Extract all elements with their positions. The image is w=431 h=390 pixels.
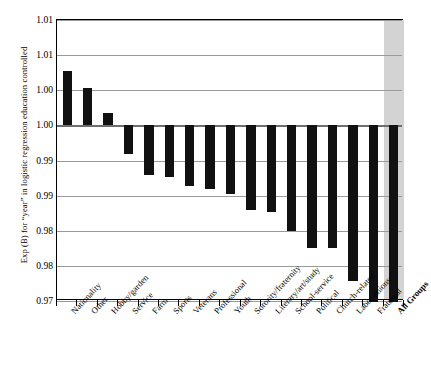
gridline [57, 90, 402, 91]
bar [83, 88, 92, 125]
y-axis-tick-label: 1.00 [36, 119, 53, 130]
plot-area [56, 19, 403, 300]
x-axis-category-labels: NationalityOtherHobby/gardenServiceFarmS… [0, 300, 409, 390]
bar [226, 125, 235, 194]
bar [103, 113, 112, 125]
y-axis-tick-label: 1.01 [36, 49, 53, 60]
y-axis-tick-label: 0.99 [36, 189, 53, 200]
y-axis-tick-label: 0.98 [36, 224, 53, 235]
gridline [57, 55, 402, 56]
bar [165, 125, 174, 176]
bar [63, 71, 72, 126]
y-axis-tick-label: 1.00 [36, 84, 53, 95]
bar [307, 125, 316, 247]
bar [389, 125, 398, 301]
y-axis-tick-label: 1.01 [36, 14, 53, 25]
bar [185, 125, 194, 186]
bar [328, 125, 337, 248]
bar [144, 125, 153, 174]
y-axis-tick-label: 0.98 [36, 259, 53, 270]
bar [287, 125, 296, 230]
bar [348, 125, 357, 281]
y-axis-tick-label: 0.99 [36, 154, 53, 165]
gridline [57, 20, 402, 21]
bar [246, 125, 255, 210]
bar [267, 125, 276, 212]
bar [124, 125, 133, 154]
bar [205, 125, 214, 188]
